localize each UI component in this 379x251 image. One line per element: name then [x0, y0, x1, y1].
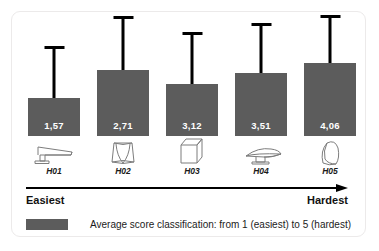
faucet-icon: [28, 136, 80, 166]
bag-icon: [97, 136, 149, 166]
error-bar-cap-h03: [182, 32, 202, 35]
axis-line: [26, 187, 336, 189]
wedge-icon: [235, 136, 287, 166]
scale-endpoint-labels: Easiest Hardest: [26, 194, 348, 209]
id-label-h03: H03: [166, 166, 218, 176]
difficulty-axis-arrow: [26, 184, 348, 193]
id-label-h01: H01: [28, 166, 80, 176]
bar-value-h04: 3,51: [235, 120, 287, 131]
legend: Average score classification: from 1 (ea…: [26, 216, 356, 232]
error-bar-cap-h01: [44, 46, 64, 49]
bar-h04: 3,51: [235, 73, 287, 136]
bar-value-h05: 4,06: [304, 120, 356, 131]
dome-icon: [304, 136, 356, 166]
easiest-label: Easiest: [26, 194, 65, 206]
legend-label: Average score classification: from 1 (ea…: [90, 219, 351, 230]
hardest-label: Hardest: [307, 194, 348, 206]
product-id-row: H01 H02 H03 H04 H05: [12, 166, 365, 180]
bar-h02: 2,71: [97, 70, 149, 136]
bar-h03: 3,12: [166, 84, 218, 136]
axis-arrowhead-icon: [336, 184, 348, 192]
error-bar-cap-h05: [320, 15, 340, 18]
product-icon-row: [12, 136, 365, 166]
legend-color-swatch: [26, 219, 68, 230]
bar-value-h01: 1,57: [28, 120, 80, 131]
bar-value-h02: 2,71: [97, 120, 149, 131]
id-label-h04: H04: [235, 166, 287, 176]
chart-figure: 1,57 2,71 3,12 3,51: [11, 11, 366, 237]
id-label-h02: H02: [97, 166, 149, 176]
error-bar-h03: [191, 32, 194, 84]
error-bar-h01: [53, 46, 56, 98]
error-bar-h05: [329, 15, 332, 63]
plot-area: 1,57 2,71 3,12 3,51: [12, 12, 365, 136]
bar-value-h03: 3,12: [166, 120, 218, 131]
error-bar-cap-h02: [113, 16, 133, 19]
error-bar-h02: [122, 16, 125, 70]
bar-h05: 4,06: [304, 63, 356, 136]
id-label-h05: H05: [304, 166, 356, 176]
error-bar-h04: [260, 23, 263, 73]
box-icon: [166, 136, 218, 166]
error-bar-cap-h04: [251, 23, 271, 26]
bar-h01: 1,57: [28, 98, 80, 136]
